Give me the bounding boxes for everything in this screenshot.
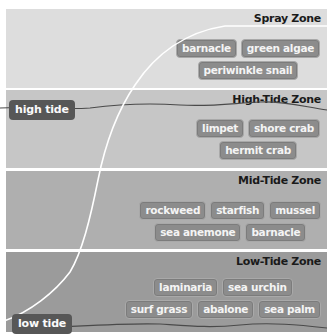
- species-tag: sea urchin: [222, 278, 293, 297]
- species-tag: limpet: [196, 119, 244, 138]
- species-tag: surf grass: [125, 300, 193, 319]
- tag-row: surf grass abalone sea palm: [125, 300, 321, 319]
- zone-title: Spray Zone: [254, 12, 321, 25]
- mid-tide-zone: Mid-Tide Zone rockweed starfish mussel s…: [6, 171, 327, 249]
- zone-title: Low-Tide Zone: [236, 255, 321, 268]
- species-tag: sea palm: [258, 300, 321, 319]
- spray-zone: Spray Zone barnacle green algae periwink…: [6, 9, 327, 88]
- tag-row: barnacle green algae: [176, 39, 320, 58]
- tag-row: laminaria sea urchin: [153, 278, 293, 297]
- species-tag: laminaria: [153, 278, 218, 297]
- species-tags: rockweed starfish mussel sea anemone bar…: [139, 201, 321, 242]
- low-tide-label: low tide: [12, 314, 72, 334]
- species-tag: periwinkle snail: [198, 61, 299, 80]
- high-tide-label: high tide: [9, 100, 75, 120]
- species-tag: abalone: [197, 300, 254, 319]
- zone-title: Mid-Tide Zone: [238, 174, 321, 187]
- species-tag: hermit crab: [219, 141, 297, 160]
- species-tag: starfish: [210, 201, 265, 220]
- tag-row: periwinkle snail: [198, 61, 299, 80]
- species-tag: green algae: [241, 39, 320, 58]
- species-tags: limpet shore crab hermit crab: [196, 119, 320, 160]
- species-tag: barnacle: [176, 39, 237, 58]
- species-tag: mussel: [269, 201, 321, 220]
- tag-row: rockweed starfish mussel: [139, 201, 321, 220]
- species-tags: laminaria sea urchin surf grass abalone …: [125, 278, 321, 319]
- tag-row: hermit crab: [219, 141, 297, 160]
- species-tag: rockweed: [139, 201, 206, 220]
- species-tag: shore crab: [248, 119, 320, 138]
- species-tag: barnacle: [245, 223, 306, 242]
- species-tags: barnacle green algae periwinkle snail: [176, 39, 320, 80]
- tag-row: sea anemone barnacle: [154, 223, 306, 242]
- species-tag: sea anemone: [154, 223, 241, 242]
- zone-title: High-Tide Zone: [232, 93, 321, 106]
- tag-row: limpet shore crab: [196, 119, 320, 138]
